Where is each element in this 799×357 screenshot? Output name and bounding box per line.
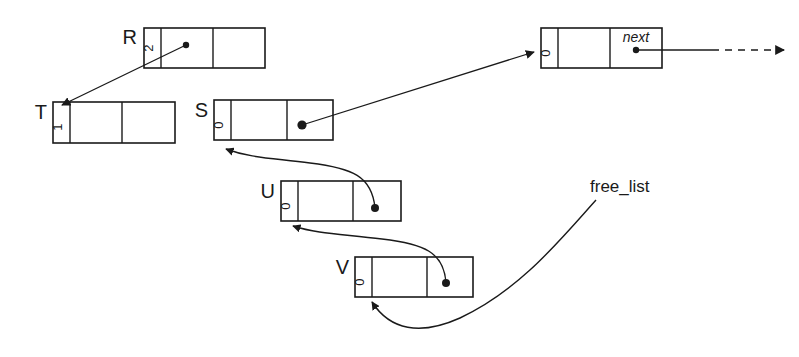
- node-R-box: [144, 28, 265, 68]
- free-list-label: free_list: [590, 177, 650, 196]
- node-head-refcount: 0: [538, 49, 553, 56]
- node-V-refcount: 0: [352, 278, 367, 285]
- node-head[interactable]: 0 next: [538, 28, 662, 68]
- node-S-label: S: [195, 99, 208, 121]
- node-R-refcount: 2: [141, 44, 156, 51]
- node-S-box: [214, 100, 333, 140]
- linked-list-diagram: R 2 T 1 S 0 0: [0, 0, 799, 357]
- node-S-refcount: 0: [211, 121, 226, 128]
- edge-s-to-head: [302, 52, 534, 125]
- node-V[interactable]: V 0: [336, 256, 473, 297]
- node-T-refcount: 1: [50, 123, 65, 130]
- diagram-canvas: R 2 T 1 S 0 0: [0, 0, 799, 357]
- node-R-label: R: [123, 26, 137, 48]
- node-head-next-label: next: [623, 29, 651, 45]
- node-T[interactable]: T 1: [35, 101, 175, 143]
- node-U-refcount: 0: [278, 202, 293, 209]
- node-U[interactable]: U 0: [261, 180, 401, 221]
- node-R[interactable]: R 2: [123, 26, 265, 68]
- node-V-label: V: [336, 256, 350, 278]
- node-U-label: U: [261, 180, 275, 202]
- node-S[interactable]: S 0: [195, 99, 333, 140]
- node-V-box: [355, 257, 473, 297]
- node-T-box: [53, 102, 175, 143]
- edge-r-to-t: [62, 45, 186, 105]
- node-T-label: T: [35, 101, 47, 123]
- node-U-box: [281, 181, 401, 221]
